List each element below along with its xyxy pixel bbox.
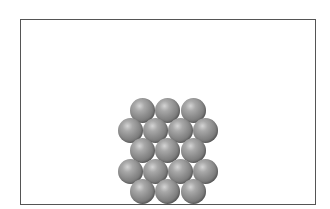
sphere xyxy=(181,179,206,204)
sphere xyxy=(155,179,180,204)
sphere xyxy=(130,179,155,204)
